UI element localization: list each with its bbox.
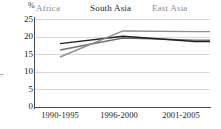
plot-canvas [35, 19, 210, 107]
chart-screenshot: Africa South Asia East Asia % 25 20 15 1… [0, 0, 221, 129]
y-tick-10: 10 [3, 67, 33, 76]
x-axis-line [34, 107, 211, 108]
line-series-east-asia [60, 31, 210, 57]
chart-plot-area: % 25 20 15 10 5 0 1990-1995 [0, 14, 221, 129]
x-tick-1996-2000: 1996-2000 [84, 110, 154, 120]
legend-item-east-asia: East Asia [152, 2, 188, 14]
y-tick-5: 5 [3, 85, 33, 94]
x-tick-2001-2005: 2001-2005 [146, 110, 216, 120]
legend-item-south-asia: South Asia [90, 2, 131, 14]
scan-edge-artifact [0, 74, 4, 75]
y-tick-15: 15 [3, 50, 33, 59]
y-tick-20: 20 [3, 32, 33, 41]
y-axis-unit-label: % [28, 1, 35, 10]
series-lines [35, 19, 210, 107]
legend-item-africa: Africa [36, 2, 60, 14]
y-tick-25: 25 [3, 15, 33, 24]
